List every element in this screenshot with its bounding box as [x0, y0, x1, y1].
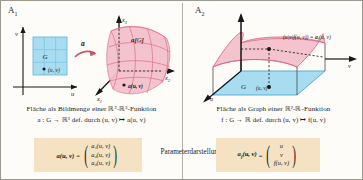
axis-label-v-a1: v: [15, 30, 18, 37]
map-arrow-label-a1: a: [81, 39, 85, 48]
formula-a1-component-2: a₂(u, v): [91, 151, 110, 160]
formula-box-a2: af(u, v) = ( u v f(u, v) ): [216, 138, 320, 172]
formula-a1-equals: =: [76, 152, 80, 159]
axis-label-u-a2: u: [210, 96, 213, 102]
axis-label-x3-a1: x3: [121, 16, 128, 25]
axis-label-u-a1: u: [71, 90, 75, 97]
formula-a1-lhs: a(u, v): [57, 152, 75, 159]
image-point-marker-a1: [122, 83, 125, 86]
formula-a2-component-1: u: [280, 142, 283, 151]
formula-a1-vector: ( a₁(u, v) a₂(u, v) a₃(u, v) ): [82, 142, 120, 168]
domain-point-label-a2: (u, v): [256, 85, 268, 92]
domain-point-label-a1: (u, v): [48, 67, 60, 74]
formula-a2-equals: =: [259, 152, 263, 159]
formula-a2-component-2: v: [280, 151, 283, 160]
graph-point-marker-a2: [267, 47, 271, 51]
diagram-a2: G (u, v): [183, 9, 363, 101]
caption-a2-line2: f : G → ℝ def. durch (u, v) ↦ f(u, v): [183, 115, 363, 125]
formula-a1-component-3: a₃(u, v): [91, 159, 110, 168]
caption-a2-line1: Fläche als Graph einer ℝ²-ℝ-Funktion: [183, 105, 363, 115]
formula-a1-component-1: a₁(u, v): [91, 142, 110, 151]
formula-a2-lhs-tail: (u, v): [242, 150, 256, 157]
formula-a2-vector: ( u v f(u, v) ): [264, 142, 298, 168]
axis-v-a2: [325, 56, 357, 62]
map-arrow-a1: [75, 51, 97, 57]
domain-point-marker-a1: [43, 68, 46, 71]
figure-page: A1 u v: [0, 0, 363, 180]
image-point-label-a1: a(u, v): [128, 83, 143, 90]
axis-label-x1-a1: x1: [96, 95, 102, 104]
formula-box-a1: a(u, v) = ( a₁(u, v) a₂(u, v) a₃(u, v) ): [34, 138, 142, 172]
diagram-a1: u v G (u, v) a: [1, 9, 182, 101]
image-label-a1: a[G]: [131, 36, 145, 44]
caption-a1-line2: a : G → ℝ³ def. durch (u, v) ↦ a(u, v): [1, 115, 182, 125]
formula-a2-lhs: af(u, v): [238, 150, 257, 159]
domain-region-label-a2: G: [241, 83, 246, 91]
domain-region-label-a1: G: [42, 53, 47, 61]
axis-label-v-a2: v: [348, 62, 351, 69]
formula-a2-component-3: f(u, v): [274, 159, 289, 168]
caption-a1-line1: Fläche als Bildmenge einer ℝ²-ℝ³-Funktio…: [1, 105, 182, 115]
